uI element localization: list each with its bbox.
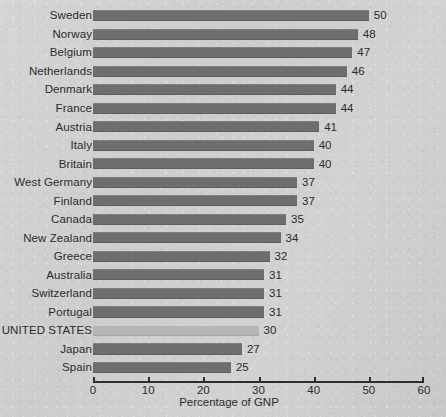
bar-row: Britain40 — [0, 155, 446, 174]
x-axis-tick-label: 20 — [197, 384, 210, 396]
value-label: 34 — [286, 229, 299, 248]
bar — [93, 103, 336, 114]
bar-row: West Germany37 — [0, 173, 446, 192]
value-label: 35 — [291, 210, 304, 229]
bar — [93, 29, 358, 40]
category-label: Finland — [54, 192, 92, 211]
x-axis-tick — [314, 377, 316, 382]
x-axis-tick — [93, 377, 95, 382]
bar-row: UNITED STATES30 — [0, 321, 446, 340]
bar — [93, 232, 281, 243]
value-label: 40 — [319, 155, 332, 174]
bar — [93, 269, 264, 280]
category-label: UNITED STATES — [2, 321, 92, 340]
category-label: Britain — [59, 155, 92, 174]
bar-row: Italy40 — [0, 136, 446, 155]
value-label: 41 — [324, 118, 337, 137]
category-label: New Zealand — [23, 229, 92, 248]
category-label: Spain — [62, 358, 92, 377]
x-axis-tick-label: 10 — [142, 384, 155, 396]
x-axis-tick-label: 0 — [90, 384, 96, 396]
bar — [93, 288, 264, 299]
value-label: 48 — [363, 25, 376, 44]
bar-row: Norway48 — [0, 25, 446, 44]
bar — [93, 306, 264, 317]
bar-row: Spain25 — [0, 358, 446, 377]
bar-row: Netherlands46 — [0, 62, 446, 81]
category-label: West Germany — [14, 173, 92, 192]
category-label: Norway — [52, 25, 92, 44]
bar-highlighted — [93, 325, 259, 336]
value-label: 50 — [374, 6, 387, 25]
x-axis-tick-label: 50 — [362, 384, 375, 396]
value-label: 30 — [264, 321, 277, 340]
bar — [93, 140, 314, 151]
category-label: Belgium — [50, 43, 92, 62]
category-label: Italy — [70, 136, 92, 155]
value-label: 37 — [302, 192, 315, 211]
bar-row: Australia31 — [0, 266, 446, 285]
bar-row: Greece32 — [0, 247, 446, 266]
value-label: 27 — [247, 340, 260, 359]
x-axis-title-text: Percentage of GNP — [179, 396, 279, 408]
bar-row: Denmark44 — [0, 80, 446, 99]
category-label: France — [56, 99, 92, 118]
x-axis-tick — [259, 377, 261, 382]
bar — [93, 47, 352, 58]
category-label: Portugal — [48, 303, 92, 322]
category-label: Netherlands — [29, 62, 92, 81]
value-label: 25 — [236, 358, 249, 377]
category-label: Sweden — [50, 6, 92, 25]
bar-chart: Sweden50Norway48Belgium47Netherlands46De… — [0, 0, 446, 417]
x-axis-tick-label: 30 — [252, 384, 265, 396]
bar — [93, 121, 319, 132]
bar — [93, 343, 242, 354]
value-label: 32 — [275, 247, 288, 266]
bar-row: Switzerland31 — [0, 284, 446, 303]
value-label: 31 — [269, 266, 282, 285]
x-axis-line — [93, 381, 424, 383]
x-axis-title: Percentage of GNP — [0, 396, 446, 408]
value-label: 37 — [302, 173, 315, 192]
value-label: 31 — [269, 284, 282, 303]
category-label: Canada — [51, 210, 92, 229]
x-axis-tick-label: 40 — [307, 384, 320, 396]
plot-area: Sweden50Norway48Belgium47Netherlands46De… — [0, 0, 446, 417]
bar-row: Japan27 — [0, 340, 446, 359]
bar — [93, 214, 286, 225]
value-label: 44 — [341, 80, 354, 99]
bar — [93, 251, 270, 262]
bar — [93, 158, 314, 169]
x-axis-tick — [422, 377, 424, 382]
x-axis-tick — [148, 377, 150, 382]
bar — [93, 362, 231, 373]
bar — [93, 66, 347, 77]
value-label: 47 — [357, 43, 370, 62]
value-label: 44 — [341, 99, 354, 118]
bar-row: Belgium47 — [0, 43, 446, 62]
bar — [93, 84, 336, 95]
value-label: 46 — [352, 62, 365, 81]
x-axis-tick — [203, 377, 205, 382]
bar — [93, 177, 297, 188]
bar-row: Sweden50 — [0, 6, 446, 25]
value-label: 40 — [319, 136, 332, 155]
category-label: Switzerland — [31, 284, 92, 303]
bar-row: Canada35 — [0, 210, 446, 229]
bar-row: Austria41 — [0, 118, 446, 137]
bar — [93, 10, 369, 21]
value-label: 31 — [269, 303, 282, 322]
bar — [93, 195, 297, 206]
category-label: Australia — [46, 266, 92, 285]
bar-row: Finland37 — [0, 192, 446, 211]
category-label: Greece — [54, 247, 92, 266]
category-label: Denmark — [45, 80, 92, 99]
bar-row: Portugal31 — [0, 303, 446, 322]
bar-row: New Zealand34 — [0, 229, 446, 248]
bar-row: France44 — [0, 99, 446, 118]
x-axis-tick-label: 60 — [418, 384, 431, 396]
x-axis-tick — [369, 377, 371, 382]
category-label: Austria — [56, 118, 93, 137]
category-label: Japan — [60, 340, 92, 359]
